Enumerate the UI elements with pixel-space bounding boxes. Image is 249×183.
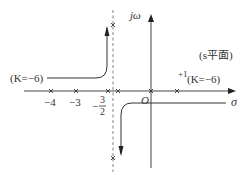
imag-axis-label: jω [130,10,141,21]
tick-neg3half-den: 2 [100,107,105,117]
right-gain-label: (K=−6) [187,74,220,85]
lower-arrow-icon [119,146,124,156]
plane-label: (s平面) [199,50,233,61]
upper-arrow-icon [105,26,110,36]
imag-axis-text: jω [130,9,141,21]
origin-label: O [141,95,149,106]
upper-locus-branch [47,28,107,78]
left-gain-label: (K=−6) [10,73,43,84]
root-locus-diagram [0,0,249,183]
tick-neg4: −4 [44,97,56,108]
tick-neg3half-num: 3 [100,95,105,105]
real-axis-arrow-icon [228,88,236,94]
lower-locus-branch [121,103,226,154]
tick-neg3half-sign: − [92,101,98,112]
imag-axis-arrow-icon [148,14,154,22]
tick-neg3: −3 [69,97,81,108]
real-axis-label: σ [231,96,237,108]
